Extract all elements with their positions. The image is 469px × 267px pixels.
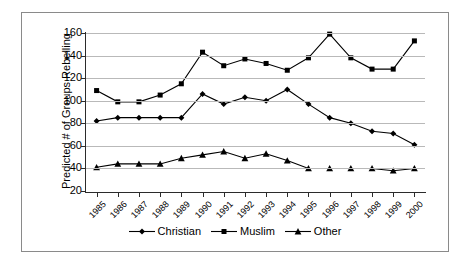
x-tick-mark <box>287 193 288 197</box>
x-tick-mark <box>139 193 140 197</box>
x-tick-mark <box>351 193 352 197</box>
y-tick-label: 120 <box>38 72 82 83</box>
x-tick-mark <box>393 193 394 197</box>
chart-frame: Predicted # of Groups Rebelling 20406080… <box>21 12 449 252</box>
data-point-marker <box>285 68 290 73</box>
y-tick-label: 60 <box>38 140 82 151</box>
x-tick-mark <box>372 193 373 197</box>
data-point-marker <box>242 56 247 61</box>
data-point-marker <box>264 61 269 66</box>
series-line <box>97 34 415 102</box>
data-point-marker <box>200 50 205 55</box>
x-tick-mark <box>118 193 119 197</box>
legend-item-muslim[interactable]: Muslim <box>211 226 275 237</box>
legend-label: Other <box>314 226 342 237</box>
x-tick-mark <box>224 193 225 197</box>
plot-area <box>86 33 425 191</box>
gridline <box>86 123 425 124</box>
y-tick-mark <box>81 168 86 169</box>
x-axis-line <box>85 192 426 193</box>
data-point-marker <box>115 115 121 121</box>
x-tick-mark <box>97 193 98 197</box>
y-tick-mark <box>81 146 86 147</box>
series-muslim <box>94 32 417 105</box>
y-tick-mark <box>81 56 86 57</box>
x-tick-mark <box>266 193 267 197</box>
x-tick-mark <box>308 193 309 197</box>
y-tick-label: 100 <box>38 95 82 106</box>
data-point-marker <box>221 63 226 68</box>
data-point-marker <box>390 130 396 136</box>
y-tick-label: 140 <box>38 50 82 61</box>
y-tick-mark <box>81 123 86 124</box>
data-point-marker <box>391 67 396 72</box>
legend-marker-diamond-icon <box>129 226 155 237</box>
series-christian <box>94 86 418 147</box>
x-tick-mark <box>245 193 246 197</box>
data-point-marker <box>242 94 248 100</box>
legend-marker-triangle-icon <box>285 226 311 237</box>
gridline <box>86 78 425 79</box>
gridline <box>86 56 425 57</box>
y-axis-tick-labels: 20406080100120140160 <box>30 13 82 253</box>
y-tick-label: 160 <box>38 27 82 38</box>
series-other <box>93 148 418 173</box>
data-point-marker <box>94 88 99 93</box>
legend-item-christian[interactable]: Christian <box>129 226 201 237</box>
data-point-marker <box>179 81 184 86</box>
legend-item-other[interactable]: Other <box>285 226 342 237</box>
data-point-marker <box>412 38 417 43</box>
gridline <box>86 168 425 169</box>
y-tick-mark <box>81 78 86 79</box>
data-point-marker <box>136 115 142 121</box>
y-tick-label: 80 <box>38 117 82 128</box>
data-point-marker <box>370 67 375 72</box>
chart-legend: ChristianMuslimOther <box>22 226 448 237</box>
x-tick-mark <box>181 193 182 197</box>
data-point-marker <box>369 128 375 134</box>
legend-marker-square-icon <box>211 226 237 237</box>
gridline <box>86 101 425 102</box>
legend-label: Muslim <box>240 226 275 237</box>
x-tick-mark <box>160 193 161 197</box>
y-tick-mark <box>81 191 86 192</box>
gridline <box>86 33 425 34</box>
y-tick-mark <box>81 33 86 34</box>
legend-label: Christian <box>158 226 201 237</box>
gridline <box>86 146 425 147</box>
data-point-marker <box>327 115 333 121</box>
series-line <box>97 89 415 144</box>
data-point-marker <box>157 115 163 121</box>
y-tick-label: 20 <box>38 185 82 196</box>
data-point-marker <box>158 93 163 98</box>
data-point-marker <box>263 150 270 156</box>
data-point-marker <box>220 148 227 154</box>
x-tick-mark <box>203 193 204 197</box>
y-tick-mark <box>81 101 86 102</box>
x-tick-mark <box>414 193 415 197</box>
data-point-marker <box>221 101 227 107</box>
y-tick-label: 40 <box>38 162 82 173</box>
x-tick-mark <box>330 193 331 197</box>
series-layer <box>86 33 425 191</box>
